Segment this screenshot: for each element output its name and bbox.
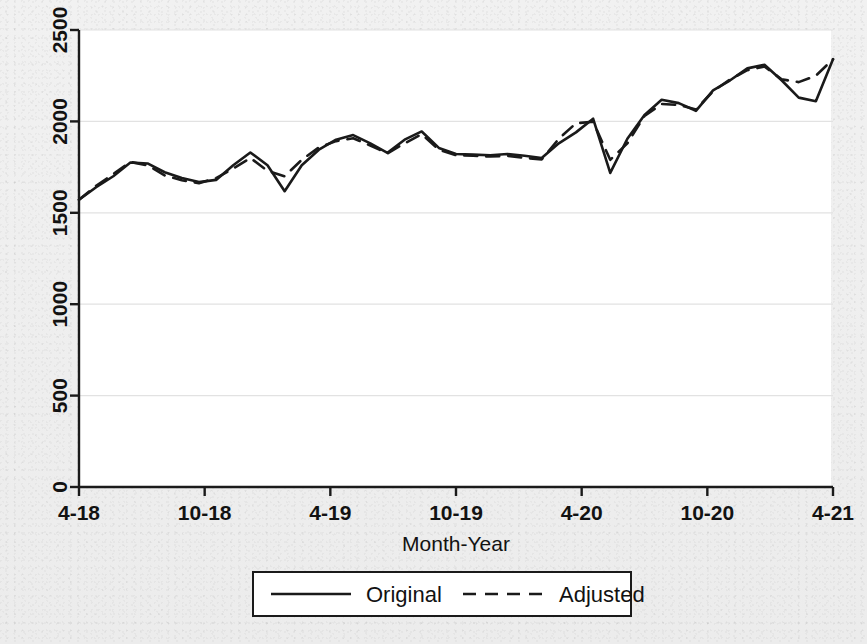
chart-svg: 05001000150020002500 4-1810-184-1910-194… bbox=[0, 0, 867, 644]
plot-area bbox=[79, 30, 831, 487]
x-axis-tick-label: 10-19 bbox=[429, 501, 483, 524]
y-axis-tick-label: 500 bbox=[48, 378, 71, 413]
legend-label-original: Original bbox=[366, 582, 442, 607]
x-axis-tick-label: 10-18 bbox=[178, 501, 232, 524]
x-axis-ticks bbox=[79, 487, 833, 496]
y-axis-tick-labels: 05001000150020002500 bbox=[48, 7, 71, 493]
y-axis-ticks bbox=[70, 30, 79, 487]
y-axis-tick-label: 1000 bbox=[48, 281, 71, 328]
x-axis-title: Month-Year bbox=[402, 532, 510, 555]
x-axis-tick-label: 4-21 bbox=[812, 501, 854, 524]
y-axis-tick-label: 1500 bbox=[48, 189, 71, 236]
legend-label-adjusted: Adjusted bbox=[559, 582, 645, 607]
x-axis-tick-labels: 4-1810-184-1910-194-2010-204-21 bbox=[58, 501, 854, 524]
x-axis-tick-label: 4-18 bbox=[58, 501, 100, 524]
y-axis-tick-label: 2500 bbox=[48, 7, 71, 54]
x-axis-tick-label: 10-20 bbox=[680, 501, 734, 524]
chart-legend: Original Adjusted bbox=[253, 572, 645, 616]
y-axis-tick-label: 2000 bbox=[48, 98, 71, 145]
x-axis-tick-label: 4-20 bbox=[561, 501, 603, 524]
chart-figure: 05001000150020002500 4-1810-184-1910-194… bbox=[0, 0, 867, 644]
x-axis-tick-label: 4-19 bbox=[309, 501, 351, 524]
y-axis-tick-label: 0 bbox=[48, 481, 71, 493]
